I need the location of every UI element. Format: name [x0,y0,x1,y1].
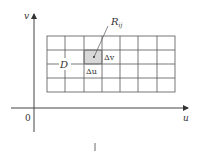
delta-v-label: Δv [104,53,115,62]
diagram-canvas: v 0 u D Rij Δv Δu [0,0,199,153]
u-axis-label: u [183,113,189,123]
region-label: D [59,59,68,70]
rij-label: Rij [110,16,122,29]
delta-u-label: Δu [86,67,97,76]
v-axis-label: v [24,11,29,21]
origin-label: 0 [25,113,31,123]
cell-point [93,56,95,58]
